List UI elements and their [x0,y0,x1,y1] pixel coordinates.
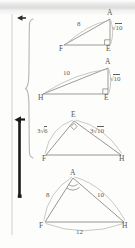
figure-4-angle-arc-outer [67,187,80,190]
figure-4-arc-FH [46,224,124,231]
figure-2-vertex-H: H [38,94,43,102]
figure-4-label-side-FH: 12 [76,229,83,236]
figure-1-label-side-FA: 8 [77,21,81,28]
figure-4-vertex-H: H [122,222,127,230]
figure-3-coefficient-right: 3 [90,127,94,135]
grouping-brace [26,19,33,158]
figure-3-right-triangle [45,120,122,155]
figure-2-label-side-AE: √10 [110,76,120,83]
figure-2-outline [43,68,108,94]
figure-4-vertex-F: F [39,222,43,230]
figure-3-vertex-F: F [42,155,46,163]
figure-1-right-triangle [64,19,113,45]
figure-1-vertex-F: F [59,45,63,53]
figure-1-outline [64,19,110,45]
figure-1-radicand: 10 [115,23,122,32]
figure-4-label-side-FA: 8 [46,192,50,199]
figure-3-radicand-left: 6 [44,126,48,135]
figure-1-vertex-A: A [107,9,112,17]
scanned-page: A F E 8 √10 A H E 10 √10 E F H 3√6 3√10 … [0,0,135,248]
figure-3-vertex-E: E [71,111,76,119]
figures-canvas [0,0,135,248]
figure-4-label-side-AH: 10 [97,192,104,199]
figure-2-radicand: 10 [113,74,120,83]
figure-2-vertex-A: A [105,58,110,66]
figure-3-label-side-FE: 3√6 [37,128,47,135]
figure-3-label-side-EH: 3√10 [90,128,104,135]
figure-4-angle-arc-inner [69,184,78,186]
figure-2-label-side-HA: 10 [63,70,70,77]
figure-1-vertex-E: E [106,45,111,53]
figure-4-outline [45,178,124,222]
figure-3-radicand-right: 10 [97,126,104,135]
arrow-top-left-icon [17,15,26,21]
figure-3-outline [46,121,121,155]
figure-4-triangle [44,177,125,231]
figure-3-coefficient-left: 3 [37,127,41,135]
figure-2-right-triangle [43,68,111,94]
figure-3-arc-FE [45,120,73,154]
figure-3-vertex-H: H [119,155,124,163]
figure-1-label-side-AE: √10 [112,25,122,32]
figure-4-vertex-A: A [70,169,75,177]
figure-2-vertex-E: E [104,94,109,102]
marker-bar [15,116,26,198]
